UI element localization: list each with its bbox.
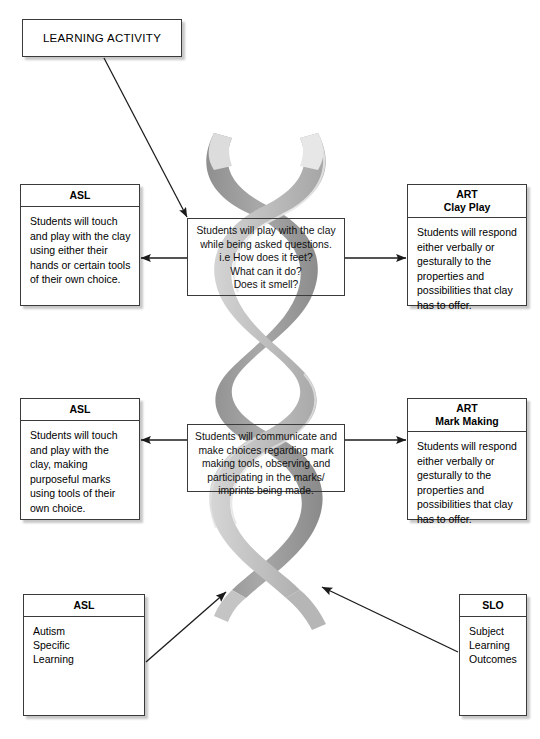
slo-legend-to-helix-arrow: [322, 587, 458, 652]
asl-legend-to-helix-arrow: [146, 592, 226, 662]
connector-layer: [0, 0, 540, 739]
title-to-process-arrow: [104, 58, 187, 217]
diagram-canvas: LEARNING ACTIVITY ASL Students will touc…: [0, 0, 540, 739]
